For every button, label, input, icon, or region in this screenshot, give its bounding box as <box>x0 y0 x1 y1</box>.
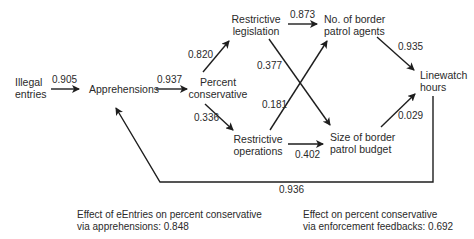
note-line: via enforcement feedbacks: 0.692 <box>303 221 453 233</box>
coef-operations-agents: 0.181 <box>262 99 287 110</box>
note-line: Effect of eEntries on percent conservati… <box>77 209 262 221</box>
node-label-line: Apprehensions <box>89 83 159 95</box>
node-percent-conservative: Percent conservative <box>189 76 248 100</box>
node-restrictive-legislation: Restrictive legislation <box>231 13 280 37</box>
node-border-patrol-agents: No. of border patrol agents <box>324 13 386 37</box>
node-restrictive-operations: Restrictive operations <box>233 133 282 157</box>
note-line: via apprehensions: 0.848 <box>77 221 262 233</box>
coef-linewatch-apprehensions: 0.936 <box>279 184 304 195</box>
note-entries-effect: Effect of eEntries on percent conservati… <box>77 209 262 233</box>
node-illegal-entries: Illegal entries <box>15 76 47 100</box>
node-label-line: Size of border <box>330 131 396 143</box>
node-label-line: Restrictive <box>231 13 280 25</box>
node-label-line: conservative <box>189 88 248 100</box>
node-border-patrol-budget: Size of border patrol budget <box>330 131 396 155</box>
node-label-line: patrol agents <box>324 25 385 37</box>
node-label-line: legislation <box>233 25 280 37</box>
node-label-line: Restrictive <box>233 133 282 145</box>
coef-entries-apprehensions: 0.905 <box>52 74 77 85</box>
coef-operations-budget: 0.402 <box>295 149 320 160</box>
path-diagram: Illegal entries Apprehensions Percent co… <box>0 0 474 239</box>
coef-agents-linewatch: 0.935 <box>398 41 423 52</box>
node-label-line: No. of border <box>324 13 386 25</box>
coef-conservative-operations: 0.336 <box>194 112 219 123</box>
coef-conservative-legislation: 0.820 <box>188 49 213 60</box>
node-label-line: Percent <box>200 76 236 88</box>
node-linewatch-hours: Linewatch hours <box>420 69 467 93</box>
coef-budget-linewatch: 0.029 <box>398 110 423 121</box>
node-label-line: Linewatch <box>420 69 467 81</box>
note-line: Effect on percent conservative <box>303 209 453 221</box>
coef-legislation-agents: 0.873 <box>290 9 315 20</box>
node-apprehensions: Apprehensions <box>89 83 159 95</box>
node-label-line: Illegal <box>15 76 42 88</box>
node-label-line: hours <box>420 81 446 93</box>
edge-operations-to-agents <box>270 41 327 130</box>
coef-apprehensions-conservative: 0.937 <box>157 74 182 85</box>
node-label-line: entries <box>15 88 47 100</box>
node-label-line: operations <box>233 145 282 157</box>
node-label-line: patrol budget <box>330 143 391 155</box>
coef-legislation-budget: 0.377 <box>257 60 282 71</box>
note-enforcement-effect: Effect on percent conservative via enfor… <box>303 209 453 233</box>
